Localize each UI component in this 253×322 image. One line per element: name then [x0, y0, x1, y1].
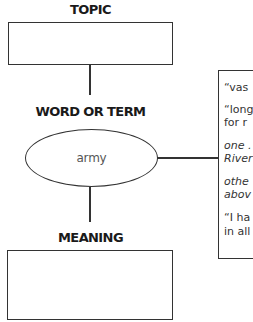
context-entry-4-line-2: abov	[224, 188, 251, 201]
topic-heading: TOPIC	[8, 2, 173, 17]
word-or-term-ellipse[interactable]: army	[25, 129, 158, 187]
connector-term-to-context	[157, 157, 219, 159]
word-or-term-value: army	[76, 151, 106, 165]
connector-topic-to-term	[89, 65, 91, 95]
word-or-term-heading: WORD OR TERM	[8, 104, 173, 119]
meaning-box[interactable]	[7, 250, 173, 320]
context-entry-2-line-1: “long	[224, 103, 253, 116]
topic-box[interactable]	[8, 22, 173, 65]
context-entry-1-line-1: “vas	[224, 81, 248, 94]
context-entry-2-line-2: for r	[224, 116, 247, 129]
context-entry-4-line-1: othe	[224, 175, 249, 188]
context-sentences-panel: “vas “long for r one . River othe abov “…	[218, 70, 253, 259]
context-entry-3-line-2: River	[224, 152, 253, 165]
context-entry-5-line-1: “I ha	[224, 211, 250, 224]
meaning-heading: MEANING	[8, 230, 173, 245]
context-entry-5-line-2: in all	[224, 225, 250, 238]
context-entry-3-line-1: one .	[224, 139, 251, 152]
connector-term-to-meaning	[89, 187, 91, 222]
